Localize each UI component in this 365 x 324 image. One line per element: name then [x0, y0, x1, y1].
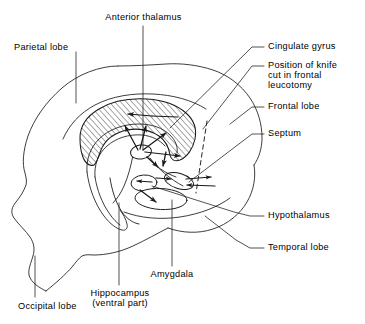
- label-hypothalamus: Hypothalamus: [268, 210, 330, 221]
- brain-outer-outline: [12, 66, 118, 291]
- callosal-rostrum-limb: [87, 172, 127, 230]
- fornix-outline: [113, 155, 133, 203]
- brain-limbic-system-diagram: Anterior thalamus Parietal lobe Cingulat…: [0, 0, 365, 324]
- label-knife-cut-line1: Position of knife: [268, 60, 337, 71]
- label-frontal-lobe: Frontal lobe: [268, 101, 320, 112]
- arrow-thalamus-down: [147, 157, 158, 167]
- label-septum: Septum: [268, 128, 301, 139]
- label-hippocampus-line1: Hippocampus: [78, 288, 162, 299]
- leader-lines: [35, 26, 264, 297]
- amygdala-nucleus: [134, 187, 187, 211]
- label-hippocampus-line2: (ventral part): [78, 298, 162, 309]
- leader-knife-cut: [203, 66, 264, 129]
- label-knife-cut-line3: leucotomy: [268, 80, 312, 91]
- leader-temporal-lobe: [205, 216, 264, 248]
- leader-septum: [189, 134, 264, 182]
- label-cingulate-gyrus: Cingulate gyrus: [268, 41, 336, 52]
- label-temporal-lobe: Temporal lobe: [268, 242, 329, 253]
- label-occipital-lobe: Occipital lobe: [18, 301, 77, 312]
- label-parietal-lobe: Parietal lobe: [14, 42, 68, 53]
- label-knife-cut-line2: cut in frontal: [268, 70, 322, 81]
- brain-base-outline: [46, 228, 168, 291]
- knife-cut-dashed-line: [196, 121, 207, 193]
- label-amygdala: Amygdala: [135, 269, 209, 280]
- label-anterior-thalamus: Anterior thalamus: [85, 12, 202, 23]
